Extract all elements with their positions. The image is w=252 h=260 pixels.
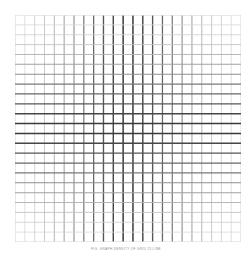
lattice-grid-canvas <box>15 15 241 242</box>
grid-plot-area <box>15 15 241 242</box>
figure-root: FIG. GRAPH DENSITY OF GRID 23 LINE <box>0 0 252 260</box>
figure-caption: FIG. GRAPH DENSITY OF GRID 23 LINE <box>0 247 252 252</box>
